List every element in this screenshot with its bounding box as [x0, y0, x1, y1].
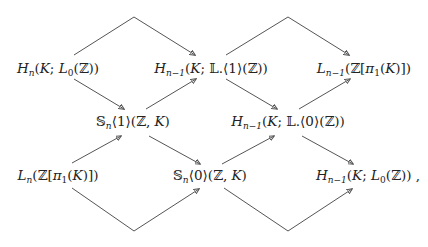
node-hn-l0: Hn(K; L0(ℤ))	[17, 62, 99, 78]
node-ln1-zpi: Ln−1(ℤ[π1(K)])	[317, 62, 411, 78]
arrow-hn1-l1-to-hn1-l0dot	[226, 79, 277, 109]
arrow-sn1-to-hn1-l1	[146, 79, 196, 109]
node-hn1-l1: Hn−1(K; 𝕃.⟨1⟩(ℤ))	[154, 62, 268, 78]
arrow-bottom-arc-left	[72, 188, 199, 231]
node-hn1-l0: Hn−1(K; L0(ℤ)) ,	[316, 169, 420, 185]
arrow-top-arc-left	[74, 17, 195, 55]
node-hn1-l0dot: Hn−1(K; 𝕃.⟨0⟩(ℤ))	[231, 115, 345, 131]
arrow-ln-to-sn1	[72, 136, 121, 163]
node-sn1: 𝕊n⟨1⟩(ℤ, K)	[96, 115, 170, 131]
arrow-hn1-l0dot-to-ln1	[299, 79, 350, 109]
arrows-layer	[0, 0, 428, 247]
arrow-hn-to-sn1	[74, 79, 124, 109]
arrow-sn1-to-sn0	[149, 136, 200, 164]
node-ln-zpi: Ln(ℤ[π1(K)])	[18, 169, 99, 185]
arrow-hn1-l0dot-to-hn1-l0	[302, 136, 353, 164]
arrow-bottom-arc-right	[224, 188, 352, 231]
arrow-top-arc-right	[226, 17, 349, 55]
arrow-sn0-to-hn1-l0dot	[222, 136, 274, 164]
node-sn0: 𝕊n⟨0⟩(ℤ, K)	[173, 169, 247, 185]
braid-diagram: Hn(K; L0(ℤ)) Hn−1(K; 𝕃.⟨1⟩(ℤ)) Ln−1(ℤ[π1…	[0, 0, 428, 247]
